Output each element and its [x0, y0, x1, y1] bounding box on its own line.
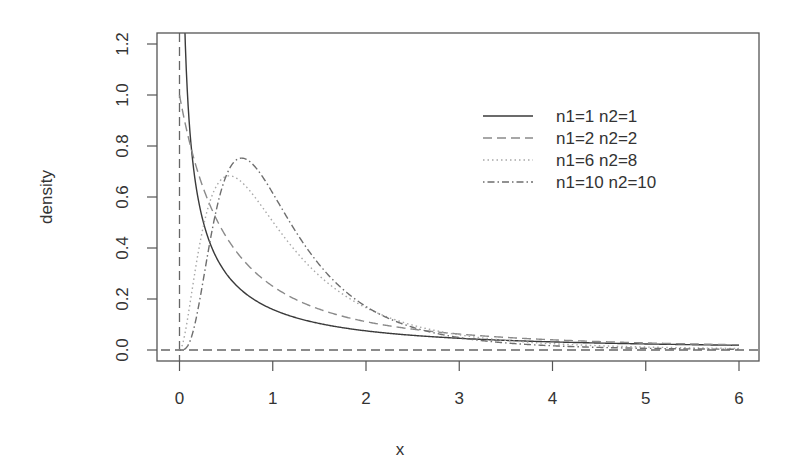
plot-box: [157, 33, 759, 361]
density-curve-1: [180, 95, 740, 345]
x-tick-label: 3: [455, 389, 464, 408]
x-tick-label: 0: [175, 389, 184, 408]
f-density-chart: 0123456 0.00.20.40.60.81.01.2 x density …: [0, 0, 787, 476]
y-tick-label: 1.0: [113, 83, 132, 107]
x-tick-label: 2: [361, 389, 370, 408]
y-tick-label: 0.4: [113, 236, 132, 260]
y-tick-label: 0.6: [113, 185, 132, 209]
legend-label: n1=1 n2=1: [556, 107, 637, 126]
plot-area: [147, 0, 759, 375]
x-axis-title: x: [396, 440, 405, 459]
x-tick-label: 4: [548, 389, 557, 408]
y-axis-title: density: [37, 170, 56, 224]
y-tick-label: 0.0: [113, 338, 132, 362]
legend-label: n1=10 n2=10: [556, 173, 656, 192]
legend-label: n1=6 n2=8: [556, 151, 637, 170]
x-tick-label: 6: [734, 389, 743, 408]
legend: n1=1 n2=1n1=2 n2=2n1=6 n2=8n1=10 n2=10: [483, 107, 656, 192]
density-curve-2: [180, 176, 740, 350]
x-tick-label: 1: [268, 389, 277, 408]
y-tick-label: 0.2: [113, 287, 132, 311]
legend-label: n1=2 n2=2: [556, 129, 637, 148]
y-axis: 0.00.20.40.60.81.01.2: [113, 32, 157, 362]
x-axis: 0123456: [175, 361, 744, 408]
y-tick-label: 1.2: [113, 32, 132, 56]
x-tick-label: 5: [641, 389, 650, 408]
y-tick-label: 0.8: [113, 134, 132, 158]
